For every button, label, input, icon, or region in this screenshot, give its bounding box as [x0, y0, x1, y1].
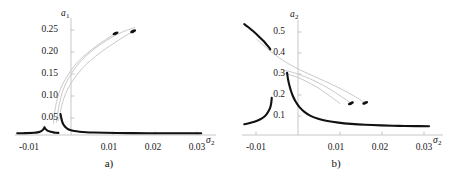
stable-right-branch — [61, 114, 202, 133]
panel-a-ytick-4: 0.05 — [28, 113, 58, 123]
panel-a-x-axis-symbol: σ — [206, 135, 211, 145]
panel-b-ytick-3: 0.2 — [257, 90, 285, 100]
panel-b-caption: b) — [311, 157, 361, 169]
panel-a-xtick-2: 0.02 — [136, 143, 170, 153]
panel-a-y-axis-subscript: 1 — [66, 12, 70, 20]
panel-b-xtick-1: 0.01 — [319, 143, 353, 153]
panel-b-ytick-1: 0.4 — [257, 48, 285, 58]
panel-a-y-axis-title: a1 — [61, 8, 70, 20]
panel-a-x-axis-title: σ2 — [206, 135, 214, 147]
panel-b-ytick-0: 0.5 — [257, 27, 285, 37]
panel-b-x-axis-subscript: 2 — [438, 139, 442, 147]
panel-b-x-axis-title: σ2 — [433, 135, 441, 147]
panel-a-xtick-0: -0.01 — [11, 143, 47, 153]
panel-a-ytick-2: 0.15 — [28, 69, 58, 79]
panel-b: 0.5 0.4 0.3 0.2 0.1 -0.01 0.01 0.02 0.03… — [227, 0, 454, 180]
stable-lower-left-branch — [17, 127, 58, 133]
panel-a: 0.25 0.20 0.15 0.10 0.05 -0.01 0.01 0.02… — [0, 0, 227, 180]
panel-a-ytick-1: 0.20 — [28, 47, 58, 57]
panel-a-ytick-0: 0.25 — [28, 25, 58, 35]
panel-b-y-axis-title: a2 — [290, 9, 299, 21]
panel-a-ytick-3: 0.10 — [28, 91, 58, 101]
unstable-branch-3 — [53, 33, 116, 123]
panel-a-x-axis-subscript: 2 — [211, 139, 215, 147]
panel-b-xtick-0: -0.01 — [238, 143, 274, 153]
stable-right-branch — [287, 73, 429, 127]
panel-b-xtick-2: 0.02 — [363, 143, 397, 153]
bifurcation-figure: 0.25 0.20 0.15 0.10 0.05 -0.01 0.01 0.02… — [0, 0, 454, 180]
panel-b-ytick-2: 0.3 — [257, 69, 285, 79]
panel-b-x-axis-symbol: σ — [433, 135, 438, 145]
panel-b-y-axis-subscript: 2 — [295, 13, 299, 21]
panel-b-ytick-4: 0.1 — [257, 111, 285, 121]
panel-a-caption: a) — [84, 157, 134, 169]
panel-a-xtick-1: 0.01 — [92, 143, 126, 153]
